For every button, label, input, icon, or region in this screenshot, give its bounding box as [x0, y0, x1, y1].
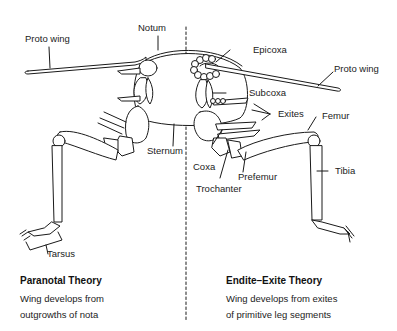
- endite-exite-theory-desc-line1: Wing develops from exites: [226, 291, 337, 307]
- label-notum: Notum: [138, 22, 166, 33]
- label-tarsus: Tarsus: [47, 248, 75, 259]
- paranotal-theory-desc-line1: Wing develops from: [20, 291, 104, 307]
- label-sternum: Sternum: [147, 145, 183, 156]
- label-exites: Exites: [278, 108, 304, 119]
- endite-exite-theory-desc-line2: of primitive leg segments: [226, 307, 331, 323]
- paranotal-theory-title: Paranotal Theory: [20, 275, 102, 286]
- label-epicoxa: Epicoxa: [253, 44, 287, 55]
- label-subcoxa: Subcoxa: [249, 87, 286, 98]
- endite-exite-theory-title: Endite–Exite Theory: [226, 275, 322, 286]
- paranotal-theory-desc-line2: outgrowths of nota: [20, 307, 98, 323]
- label-prefemur: Prefemur: [238, 171, 277, 182]
- label-tibia: Tibia: [335, 165, 355, 176]
- label-proto-wing-right: Proto wing: [334, 63, 379, 74]
- label-coxa: Coxa: [193, 161, 215, 172]
- label-trochanter: Trochanter: [196, 183, 242, 194]
- label-proto-wing-left: Proto wing: [25, 33, 70, 44]
- label-femur: Femur: [322, 110, 349, 121]
